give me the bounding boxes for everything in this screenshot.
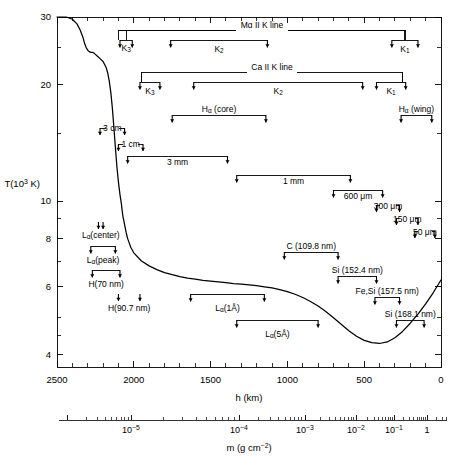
mm3-label: 3 mm <box>167 157 188 167</box>
mg2k-k3-label: K3 <box>121 43 131 53</box>
m-tick-label: 10−2 <box>347 424 365 435</box>
mm3-arrow-right <box>225 156 229 164</box>
ca2k-line-label: Ca II K line <box>251 62 293 72</box>
m-tick-label: 10−3 <box>296 424 314 435</box>
m-tick-label: 10−1 <box>385 424 403 435</box>
m-tick-label: 10−4 <box>230 424 248 435</box>
h907-arrow-left <box>116 294 120 301</box>
la-1a-arrow-right <box>262 294 266 302</box>
si1681-label: Si (168.1 nm) <box>385 309 436 319</box>
mm1-arrow-left <box>235 175 239 183</box>
x-tick-label: 500 <box>356 374 372 385</box>
x-axis-title: h (km) <box>236 392 263 403</box>
cm3-label: 3 cm <box>103 123 121 133</box>
c1098-label: C (109.8 nm) <box>286 241 336 251</box>
la-peak-arrow-right <box>113 246 117 254</box>
h907-label: H(90.7 nm) <box>108 303 151 313</box>
ha-core-arrow-left <box>170 115 174 123</box>
y-tick-label: 30 <box>40 11 51 22</box>
la-center-arrow-left <box>96 222 100 229</box>
x-tick-label: 2500 <box>46 374 67 385</box>
x-tick-label: 0 <box>438 374 443 385</box>
um50-label: 50 μm <box>413 227 437 237</box>
mm1-arrow-right <box>348 175 352 183</box>
ca2k-k2-arrow-right <box>361 82 365 90</box>
ha-wing-arrow-left <box>399 115 403 123</box>
m-axis-title: m (g cm−2) <box>226 442 271 453</box>
temperature-height-figure: 302010864T(103 K)25002000150010005000h (… <box>0 0 454 457</box>
x-tick-label: 1000 <box>277 374 298 385</box>
c1098-arrow-right <box>336 252 340 260</box>
mg2k-k2-arrow-right <box>265 40 269 48</box>
um300-label: 300 μm <box>374 201 403 211</box>
ca2k-k1-arrow-left <box>374 82 378 90</box>
m-tick-label: 1 <box>424 425 429 435</box>
figure-canvas: 302010864T(103 K)25002000150010005000h (… <box>0 0 454 457</box>
si1524-label: Si (152.4 nm) <box>332 265 383 275</box>
ca2k-k2-label: K2 <box>274 86 284 96</box>
mg2k-k1-arrow-left <box>390 40 394 48</box>
fesi1575-arrow-left <box>373 297 377 305</box>
la-1a-label: Lα(1Å) <box>215 303 240 313</box>
c1098-arrow-left <box>282 252 286 260</box>
cm1-arrow-right <box>141 144 145 151</box>
si1524-arrow-right <box>374 276 378 284</box>
h70-arrow-right <box>118 270 122 278</box>
ca2k-k1-arrow-right <box>404 82 408 90</box>
la-5a-label: Lα(5Å) <box>265 329 290 339</box>
la-1a-arrow-left <box>189 294 193 302</box>
um600-arrow-right <box>381 190 385 198</box>
la-5a-arrow-left <box>235 320 239 328</box>
cm3-arrow-right <box>123 128 127 135</box>
ca2k-k2-arrow-left <box>192 82 196 90</box>
fesi1575-label: Fe,Si (157.5 nm) <box>356 286 419 296</box>
ca2k-k1-label: K1 <box>386 86 396 96</box>
la-peak-arrow-left <box>89 246 93 254</box>
ha-core-arrow-right <box>264 115 268 123</box>
si1681-arrow-left <box>394 320 398 328</box>
y-axis-title: T(103 K) <box>4 178 40 189</box>
plot-frame <box>57 17 441 367</box>
mg2k-k1-label: K1 <box>400 44 410 54</box>
ca2k-k3-arrow-left <box>138 82 142 90</box>
mg2k-k3-arrow-right <box>130 40 134 48</box>
x-tick-label: 1500 <box>200 374 221 385</box>
ha-wing-label: Hα (wing) <box>399 104 435 114</box>
mg2k-k1-arrow-right <box>416 40 420 48</box>
si1681-arrow-right <box>422 320 426 328</box>
x-tick-label: 2000 <box>123 374 144 385</box>
h70-label: H(70 nm) <box>88 279 124 289</box>
cm1-arrow-left <box>116 144 120 151</box>
mg2k-label-mask <box>236 28 288 32</box>
la-center-label: Lα(center) <box>82 230 120 240</box>
ca2k-k3-arrow-right <box>158 82 162 90</box>
y-tick-label: 8 <box>46 233 51 244</box>
y-tick-label: 20 <box>40 79 51 90</box>
y-tick-label: 10 <box>40 195 51 206</box>
m-tick-label: 10−5 <box>122 424 140 435</box>
fesi1575-arrow-right <box>398 297 402 305</box>
h70-arrow-left <box>90 270 94 278</box>
si1524-arrow-left <box>336 276 340 284</box>
la-center-arrow-right <box>101 222 105 229</box>
ha-core-label: Hα (core) <box>202 104 237 114</box>
ca2k-k3-label: K3 <box>145 86 155 96</box>
y-tick-label: 6 <box>46 281 51 292</box>
cm1-label: 1 cm <box>122 139 140 149</box>
mm1-label: 1 mm <box>283 176 304 186</box>
um150-label: 150 μm <box>393 214 422 224</box>
la-5a-arrow-right <box>316 320 320 328</box>
mg2k-k2-label: K2 <box>214 44 224 54</box>
la-peak-label: Lα(peak) <box>87 255 120 265</box>
cm3-arrow-left <box>98 128 102 135</box>
um600-label: 600 μm <box>344 191 373 201</box>
mm3-arrow-left <box>126 156 130 164</box>
ha-wing-arrow-right <box>430 115 434 123</box>
mg2k-k2-arrow-left <box>169 40 173 48</box>
h907-arrow-right <box>138 294 142 301</box>
um600-arrow-left <box>331 190 335 198</box>
y-tick-label: 4 <box>46 349 51 360</box>
